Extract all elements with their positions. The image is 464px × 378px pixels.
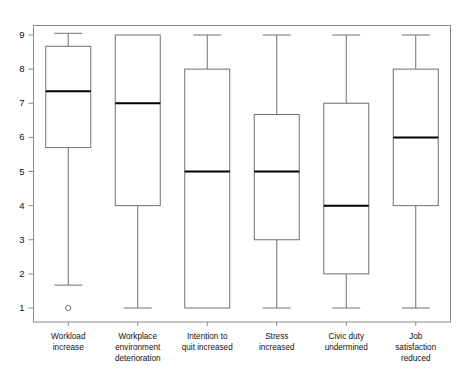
- x-axis-category-label: Stress: [265, 332, 288, 341]
- y-axis-tick-label: 2: [19, 268, 24, 279]
- x-axis-category-label: Workplace: [118, 332, 157, 341]
- x-axis-category-label: reduced: [401, 354, 431, 363]
- box-plot-chart: 123456789 WorkloadincreaseWorkplaceenvir…: [0, 0, 464, 378]
- y-axis-tick-label: 3: [19, 234, 24, 245]
- box-plot-item: [185, 35, 230, 308]
- y-axis-tick-label: 1: [19, 302, 24, 313]
- y-axis-tick-label: 9: [19, 29, 24, 40]
- x-axis-category-label: Workload: [51, 332, 86, 341]
- box-iqr-rect: [254, 115, 299, 240]
- x-axis-category-label: Intention to: [187, 332, 228, 341]
- x-axis-category-label: quit increased: [182, 343, 233, 352]
- x-axis-category-label: Job: [409, 332, 423, 341]
- plot-canvas: 123456789 WorkloadincreaseWorkplaceenvir…: [0, 0, 464, 378]
- box-iqr-rect: [185, 69, 230, 308]
- y-axis-tick-label: 6: [19, 131, 24, 142]
- box-iqr-rect: [324, 103, 369, 274]
- y-axis-tick-label: 7: [19, 97, 24, 108]
- box-iqr-rect: [46, 46, 91, 147]
- x-axis-category-label: increase: [53, 343, 84, 352]
- box-iqr-rect: [115, 35, 160, 206]
- y-axis-tick-label: 4: [19, 200, 24, 211]
- x-axis-category-label: satisfaction: [395, 343, 436, 352]
- x-axis-category-label: environment: [115, 343, 161, 352]
- x-axis-category-label: undermined: [325, 343, 369, 352]
- x-axis-category-label: Civic duty: [329, 332, 365, 341]
- y-axis-tick-label: 8: [19, 63, 24, 74]
- y-axis-tick-label: 5: [19, 166, 24, 177]
- x-axis-category-label: deterioration: [115, 354, 161, 363]
- x-axis-category-label: increased: [259, 343, 295, 352]
